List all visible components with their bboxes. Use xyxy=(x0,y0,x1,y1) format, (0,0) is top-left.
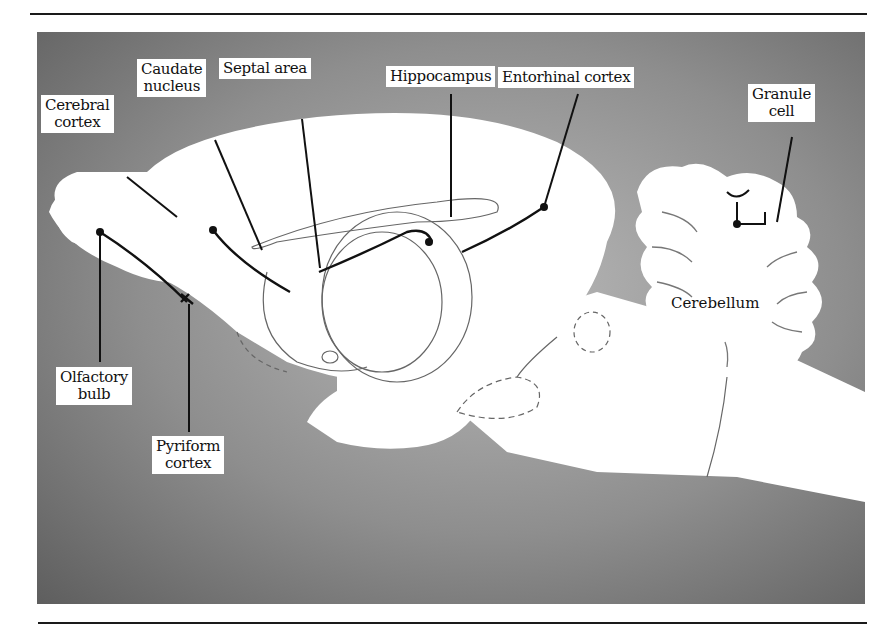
label-entorhinal-cortex: Entorhinal cortex xyxy=(498,67,634,88)
label-text: cortex xyxy=(156,455,220,472)
label-text: Caudate xyxy=(141,61,202,78)
label-text: Granule xyxy=(752,86,811,103)
diagram-panel: Cerebral cortex Caudate nucleus Septal a… xyxy=(37,32,865,604)
label-text: Cerebral xyxy=(45,97,110,114)
label-text: cortex xyxy=(45,114,110,131)
label-cerebellum: Cerebellum xyxy=(671,294,759,312)
label-cerebral-cortex: Cerebral cortex xyxy=(41,95,114,133)
label-caudate-nucleus: Caudate nucleus xyxy=(137,59,206,97)
top-rule xyxy=(30,13,867,15)
label-text: Septal area xyxy=(223,60,307,77)
label-text: Hippocampus xyxy=(390,68,491,85)
label-pyriform-cortex: Pyriform cortex xyxy=(152,436,224,474)
label-text: Olfactory xyxy=(60,369,128,386)
label-granule-cell: Granule cell xyxy=(748,84,815,122)
label-text: bulb xyxy=(60,386,128,403)
label-text: nucleus xyxy=(141,78,202,95)
bottom-rule xyxy=(38,622,867,624)
brain-illustration xyxy=(37,32,865,604)
label-septal-area: Septal area xyxy=(219,58,311,79)
label-olfactory-bulb: Olfactory bulb xyxy=(56,367,132,405)
label-text: Pyriform xyxy=(156,438,220,455)
label-text: Entorhinal cortex xyxy=(502,69,630,86)
label-hippocampus: Hippocampus xyxy=(386,66,495,87)
label-text: cell xyxy=(752,103,811,120)
